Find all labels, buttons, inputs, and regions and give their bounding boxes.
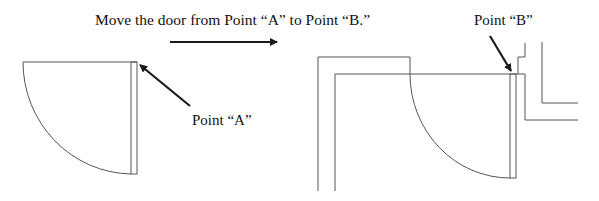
- point-a-arrow: [140, 65, 190, 106]
- door-jamb: [518, 43, 525, 74]
- instruction-text: Move the door from Point “A” to Point “B…: [95, 11, 370, 28]
- door-swing-arc-b: [410, 74, 510, 178]
- door-panel-b: [510, 74, 516, 178]
- point-b-arrow: [490, 36, 511, 71]
- point-a-label: Point “A”: [192, 112, 252, 128]
- door-move-diagram: Move the door from Point “A” to Point “B…: [0, 0, 599, 201]
- door-at-point-b: [410, 74, 516, 178]
- door-panel: [131, 62, 137, 174]
- point-b-label: Point “B”: [474, 12, 533, 28]
- wall-layout: [318, 42, 578, 191]
- adjacent-wall: [542, 42, 578, 103]
- door-at-point-a: [23, 62, 137, 174]
- door-swing-arc: [23, 62, 131, 174]
- outer-wall: [318, 57, 410, 191]
